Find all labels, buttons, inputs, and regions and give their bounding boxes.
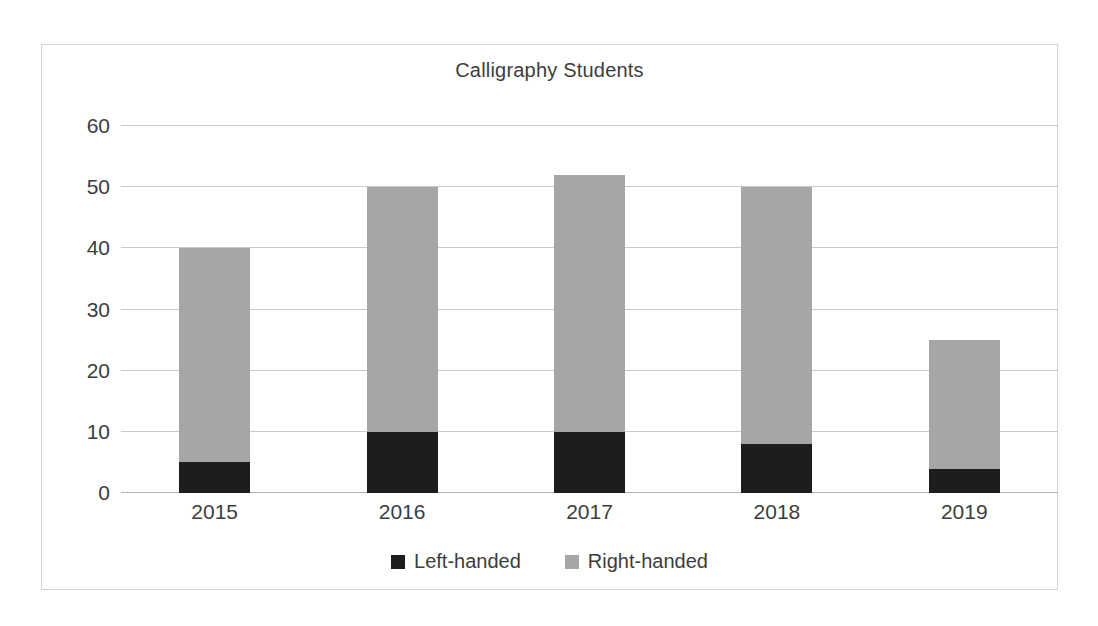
y-axis: 0102030405060	[42, 126, 110, 493]
bar-group[interactable]	[367, 126, 438, 493]
bar-segment[interactable]	[554, 432, 625, 493]
x-axis-tick-label: 2019	[904, 500, 1024, 524]
legend-label: Right-handed	[588, 550, 708, 573]
legend-swatch-icon	[565, 555, 579, 569]
bar-group[interactable]	[741, 126, 812, 493]
y-axis-tick-label: 30	[50, 298, 110, 322]
bar-group[interactable]	[929, 126, 1000, 493]
x-axis: 20152016201720182019	[121, 500, 1058, 534]
bar-segment[interactable]	[741, 187, 812, 444]
bar-segment[interactable]	[179, 462, 250, 493]
chart-container: Calligraphy Students 0102030405060 20152…	[41, 44, 1058, 590]
chart-title: Calligraphy Students	[42, 59, 1057, 82]
y-axis-tick-label: 50	[50, 175, 110, 199]
bar-group[interactable]	[554, 126, 625, 493]
y-axis-tick-label: 0	[50, 481, 110, 505]
bar-segment[interactable]	[367, 187, 438, 432]
bar-segment[interactable]	[367, 432, 438, 493]
legend-entry[interactable]: Left-handed	[391, 550, 521, 573]
bar-group[interactable]	[179, 126, 250, 493]
bar-segment[interactable]	[929, 469, 1000, 493]
x-axis-tick-label: 2015	[155, 500, 275, 524]
legend-entry[interactable]: Right-handed	[565, 550, 708, 573]
bar-segment[interactable]	[741, 444, 812, 493]
bar-segment[interactable]	[554, 175, 625, 432]
bar-segment[interactable]	[929, 340, 1000, 468]
y-axis-tick-label: 20	[50, 359, 110, 383]
y-axis-tick-label: 10	[50, 420, 110, 444]
legend: Left-handedRight-handed	[42, 550, 1057, 573]
x-axis-tick-label: 2017	[530, 500, 650, 524]
x-axis-tick-label: 2016	[342, 500, 462, 524]
legend-label: Left-handed	[414, 550, 521, 573]
y-axis-tick-label: 60	[50, 114, 110, 138]
bar-segment[interactable]	[179, 248, 250, 462]
y-axis-tick-label: 40	[50, 236, 110, 260]
x-axis-tick-label: 2018	[717, 500, 837, 524]
legend-swatch-icon	[391, 555, 405, 569]
plot-area	[121, 126, 1058, 493]
